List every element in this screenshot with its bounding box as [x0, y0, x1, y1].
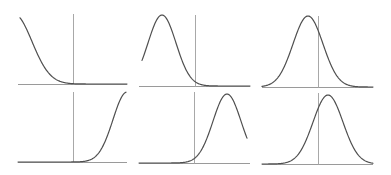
- density-curve: [262, 95, 373, 164]
- panel-top-middle: [139, 15, 250, 87]
- normal-distribution-panels: [0, 0, 391, 175]
- density-curve: [139, 94, 247, 163]
- panel-bottom-left: [18, 92, 127, 163]
- density-curve: [262, 16, 373, 87]
- panel-bottom-right: [262, 93, 373, 165]
- panel-top-left: [18, 14, 127, 85]
- panel-top-right: [262, 16, 373, 88]
- density-curve: [18, 92, 126, 162]
- panel-bottom-middle: [139, 92, 250, 164]
